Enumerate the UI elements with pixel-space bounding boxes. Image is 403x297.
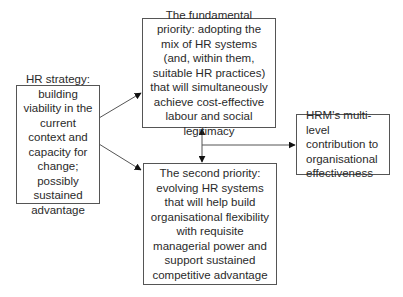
box-hr-strategy-text: HR strategy: building viability in the c… xyxy=(21,72,95,217)
box-fundamental-priority: The fundamental priority: adopting the m… xyxy=(142,18,276,128)
arrow-strategy-to-fundamental xyxy=(99,93,141,118)
box-second-priority-text: The second priority: evolving HR systems… xyxy=(148,166,272,282)
box-hr-strategy: HR strategy: building viability in the c… xyxy=(16,85,100,204)
box-second-priority: The second priority: evolving HR systems… xyxy=(143,163,277,285)
box-hrm-contribution-text: HRM's multi-level contribution to organi… xyxy=(306,108,385,181)
box-hrm-contribution: HRM's multi-level contribution to organi… xyxy=(296,114,390,175)
box-fundamental-priority-text: The fundamental priority: adopting the m… xyxy=(147,8,271,139)
arrow-strategy-to-second xyxy=(99,144,141,170)
